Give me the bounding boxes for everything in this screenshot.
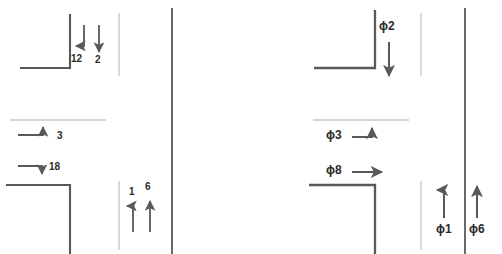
label-movement-1: 1 (129, 186, 135, 197)
arrow-movement-3 (18, 127, 43, 135)
numbered-movement-panel (0, 0, 251, 254)
arrow-movement-1 (127, 206, 133, 232)
diagram-canvas: 12 2 3 18 1 6 ϕ2 ϕ3 ϕ8 ϕ1 ϕ6 (0, 0, 502, 254)
label-movement-12: 12 (71, 53, 82, 64)
sw-corner-curb (6, 185, 70, 254)
median-lines (10, 13, 119, 250)
label-phase-6: ϕ6 (469, 222, 485, 236)
arrow-phase-1 (437, 190, 444, 218)
label-phase-3: ϕ3 (326, 128, 342, 142)
nw-corner-curb (314, 10, 375, 68)
label-phase-8: ϕ8 (326, 163, 342, 177)
arrow-movement-12 (76, 25, 84, 46)
nw-corner-curb (20, 14, 70, 68)
arrow-movement-18 (18, 166, 42, 174)
label-movement-6: 6 (145, 181, 151, 192)
label-movement-18: 18 (49, 161, 60, 172)
movement-arrows (18, 25, 150, 232)
right-panel-graphics (251, 0, 502, 254)
label-phase-1: ϕ1 (436, 222, 452, 236)
left-panel-graphics (0, 0, 251, 254)
sw-corner-curb (309, 185, 375, 254)
phase-movement-panel (251, 0, 502, 254)
road-edge-lines (6, 8, 172, 254)
label-phase-2: ϕ2 (379, 19, 395, 33)
label-movement-2: 2 (95, 54, 101, 65)
arrow-phase-3 (352, 128, 372, 137)
label-movement-3: 3 (57, 130, 63, 141)
